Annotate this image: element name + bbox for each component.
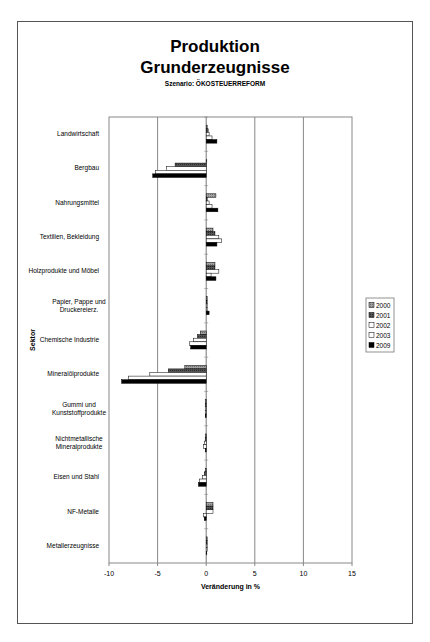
legend-label-2001: 2001 [376, 312, 391, 319]
sector-label: Metallerzeugnisse [47, 542, 100, 550]
bar-2003 [206, 205, 212, 209]
sector-label: Chemische Industrie [40, 336, 100, 343]
legend-swatch-2009 [369, 343, 374, 348]
legend-label-2000: 2000 [376, 302, 391, 309]
bar-2000 [200, 331, 206, 335]
bar-2000 [206, 537, 207, 541]
bar-2002 [206, 201, 209, 205]
bar-2009 [206, 208, 218, 212]
bar-2001 [206, 232, 215, 236]
bar-2001 [206, 540, 207, 544]
x-tick-label: 0 [204, 570, 208, 577]
plot-border [109, 117, 352, 563]
bar-2000 [185, 365, 206, 369]
bar-2003 [203, 513, 206, 517]
bar-2002 [150, 373, 206, 377]
sector-label: Mineralölprodukte [47, 370, 99, 378]
bar-2003 [190, 342, 207, 346]
bar-2003 [128, 376, 206, 380]
bar-2002 [206, 510, 213, 514]
y-axis-title: Sektor [29, 329, 36, 351]
bar-2001 [206, 300, 207, 304]
legend-swatch-2002 [369, 323, 374, 328]
x-tick-label: -5 [154, 570, 160, 577]
sector-label: Bergbau [74, 164, 99, 172]
sector-label: Nahrungsmittel [55, 199, 99, 207]
bar-2003 [203, 445, 206, 449]
sector-label: Landwirtschaft [57, 130, 99, 137]
bar-2003 [156, 170, 207, 174]
bar-2000 [206, 297, 207, 301]
bar-2002 [202, 475, 206, 479]
legend-label-2002: 2002 [376, 322, 391, 329]
bar-2000 [206, 125, 207, 129]
bar-2001 [168, 369, 206, 373]
bar-2002 [205, 407, 206, 411]
legend-label-2009: 2009 [376, 342, 391, 349]
bar-2001 [204, 472, 206, 476]
bar-2009 [206, 277, 216, 281]
bar-2001 [206, 266, 215, 270]
bar-2001 [197, 335, 206, 339]
bar-2009 [153, 174, 206, 178]
bar-2002 [204, 441, 206, 445]
bar-2003 [206, 136, 212, 140]
sector-label: NF-Metalle [67, 508, 99, 515]
bar-2009 [122, 380, 207, 384]
sector-label: Textilien, Bekleidung [40, 233, 100, 241]
x-tick-label: 5 [253, 570, 257, 577]
bar-2000 [205, 434, 206, 438]
bar-2009 [205, 448, 206, 452]
sector-label: Papier, Pappe undDruckereierz. [52, 298, 106, 313]
legend-swatch-2001 [369, 313, 374, 318]
bar-2003 [206, 548, 207, 552]
bar-2009 [206, 551, 207, 555]
x-axis-title: Veränderung in % [201, 583, 261, 591]
bar-2000 [205, 468, 206, 472]
sector-label: Gummi undKunststoffprodukte [52, 401, 106, 417]
plot-area: -10-5051015LandwirtschaftBergbauNahrungs… [29, 117, 356, 577]
x-tick-label: 15 [348, 570, 356, 577]
bar-2002 [206, 270, 219, 274]
bar-2003 [206, 239, 222, 243]
bar-2009 [204, 517, 206, 521]
bar-2009 [206, 242, 217, 246]
bar-2009 [206, 140, 217, 144]
bar-2003 [205, 410, 206, 414]
bar-2002 [206, 132, 209, 136]
bar-2009 [191, 345, 207, 349]
bar-2000 [206, 262, 215, 266]
bar-2009 [206, 311, 209, 315]
bar-2002 [206, 235, 219, 239]
bar-2000 [206, 228, 213, 232]
bar-2000 [206, 194, 216, 198]
bar-2009 [205, 414, 206, 418]
bar-2003 [206, 273, 211, 277]
legend: 20002001200220032009 [366, 298, 394, 352]
bar-2001 [205, 438, 206, 442]
x-tick-label: 10 [300, 570, 308, 577]
bar-2003 [206, 307, 207, 311]
x-tick-label: -10 [104, 570, 114, 577]
bar-2001 [205, 403, 206, 407]
bar-2003 [199, 479, 206, 483]
bar-chart: -10-5051015LandwirtschaftBergbauNahrungs… [0, 0, 430, 642]
bar-2001 [206, 129, 208, 133]
bar-2001 [206, 197, 207, 201]
bar-2002 [166, 167, 206, 171]
bar-2002 [206, 544, 207, 548]
bar-2000 [206, 159, 207, 163]
bar-2001 [175, 163, 206, 167]
sector-label: Holzprodukte und Möbel [29, 267, 100, 275]
bar-2000 [205, 400, 206, 404]
sector-label: NichtmetallischeMineralprodukte [55, 435, 103, 451]
bar-2000 [206, 503, 213, 507]
bar-2001 [206, 506, 213, 510]
bar-2002 [194, 338, 207, 342]
bar-2009 [198, 483, 206, 487]
sector-label: Eisen und Stahl [53, 473, 99, 480]
bar-2002 [206, 304, 207, 308]
legend-swatch-2003 [369, 333, 374, 338]
legend-swatch-2000 [369, 303, 374, 308]
legend-label-2003: 2003 [376, 332, 391, 339]
